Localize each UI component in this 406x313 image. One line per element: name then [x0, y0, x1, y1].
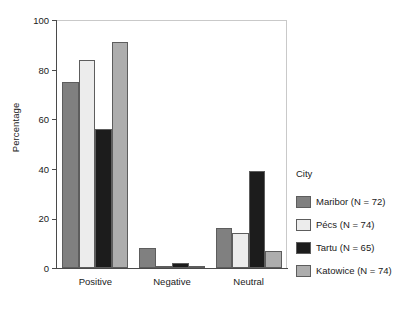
bar [112, 42, 129, 268]
y-tick-mark [52, 20, 56, 21]
y-tick-mark [52, 70, 56, 71]
bar [249, 171, 266, 268]
legend-label: Katowice (N = 74) [316, 265, 392, 276]
y-tick-label: 80 [38, 66, 49, 76]
bar [232, 233, 249, 268]
legend-label: Maribor (N = 72) [316, 196, 385, 207]
bar [62, 82, 79, 268]
bar [79, 60, 96, 268]
legend-label: Tartu (N = 65) [316, 242, 374, 253]
legend-title: City [296, 168, 406, 179]
y-tick: 80 [38, 61, 56, 79]
y-tick-label: 0 [44, 264, 49, 274]
legend: City Maribor (N = 72)Pécs (N = 74)Tartu … [296, 168, 406, 282]
y-tick-label: 100 [33, 16, 49, 26]
legend-item[interactable]: Pécs (N = 74) [296, 213, 406, 236]
legend-swatch [296, 196, 311, 208]
bar-group [216, 20, 282, 268]
y-tick-mark [52, 268, 56, 269]
bar [172, 263, 189, 268]
bar [189, 266, 206, 268]
bar [265, 251, 282, 268]
bars-area [57, 20, 287, 268]
bar-group [62, 20, 128, 268]
legend-item[interactable]: Maribor (N = 72) [296, 190, 406, 213]
x-tick-label: Positive [79, 276, 112, 287]
bar-group [139, 20, 205, 268]
x-tick-label: Negative [153, 276, 191, 287]
x-axis-line [56, 268, 288, 269]
y-tick: 60 [38, 110, 56, 128]
bar [139, 248, 156, 268]
y-tick: 0 [44, 259, 56, 277]
legend-item[interactable]: Katowice (N = 74) [296, 259, 406, 282]
y-tick-label: 40 [38, 165, 49, 175]
y-tick-mark [52, 119, 56, 120]
y-axis-title: Percentage [10, 78, 21, 178]
legend-item[interactable]: Tartu (N = 65) [296, 236, 406, 259]
bar-chart: Percentage 020406080100 PositiveNegative… [0, 0, 406, 313]
legend-label: Pécs (N = 74) [316, 219, 374, 230]
bar [95, 129, 112, 268]
y-tick-mark [52, 169, 56, 170]
legend-swatch [296, 265, 311, 277]
y-tick-mark [52, 219, 56, 220]
y-tick: 100 [33, 11, 56, 29]
bar [216, 228, 233, 268]
y-tick-label: 20 [38, 214, 49, 224]
y-tick: 20 [38, 209, 56, 227]
y-tick-label: 60 [38, 115, 49, 125]
y-tick: 40 [38, 160, 56, 178]
legend-swatch [296, 219, 311, 231]
legend-swatch [296, 242, 311, 254]
bar [156, 266, 173, 268]
x-tick-label: Neutral [233, 276, 264, 287]
